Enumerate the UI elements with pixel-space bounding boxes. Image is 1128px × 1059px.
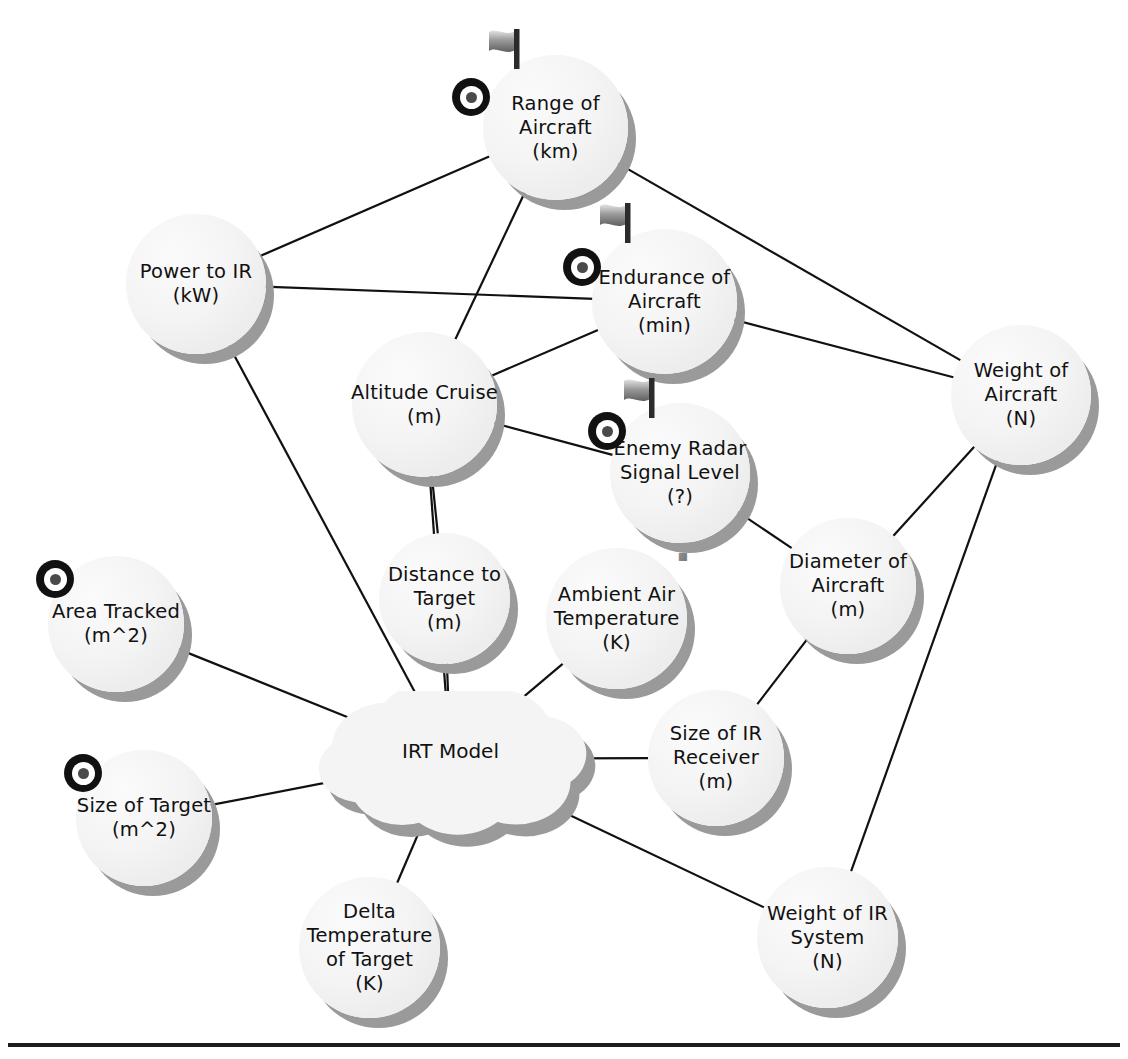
node-label-line: Area Tracked xyxy=(52,600,180,624)
node-label: Size of IRReceiver(m) xyxy=(648,690,784,826)
node-label-line: Signal Level xyxy=(620,461,740,485)
flag-icon xyxy=(481,24,537,84)
node-label: Diameter ofAircraft(m) xyxy=(780,518,916,654)
node-label-line: Range of xyxy=(511,92,599,116)
node-weight-of-aircraft[interactable]: Weight ofAircraft(N) xyxy=(951,325,1091,465)
node-label-line: Target xyxy=(414,587,476,611)
node-label-line: Size of Target xyxy=(77,794,211,818)
edge-endurance-of-aircraft--altitude-cruise xyxy=(489,329,599,376)
node-label-line: Aircraft xyxy=(812,574,885,598)
node-label-line: Distance to xyxy=(388,563,501,587)
node-label: Power to IR(kW) xyxy=(126,214,266,354)
edge-range-of-aircraft--altitude-cruise xyxy=(455,191,526,341)
node-label-line: (K) xyxy=(602,631,631,655)
node-altitude-cruise[interactable]: Altitude Cruise(m) xyxy=(352,332,497,477)
node-label-line: Weight of IR xyxy=(767,902,888,926)
node-label-line: (m) xyxy=(407,405,442,429)
node-label-line: Aircraft xyxy=(985,383,1058,407)
edge-endurance-of-aircraft--weight-of-aircraft xyxy=(733,319,956,377)
node-diameter-of-aircraft[interactable]: Diameter ofAircraft(m) xyxy=(780,518,916,654)
node-label-line: Power to IR xyxy=(140,260,252,284)
node-label-line: Receiver xyxy=(673,746,759,770)
node-irt-model[interactable]: IRT Model xyxy=(318,691,583,826)
node-label-line: Weight of xyxy=(974,359,1069,383)
node-label-line: (N) xyxy=(1006,407,1036,431)
node-label-line: Aircraft xyxy=(519,116,592,140)
node-label-line: (m) xyxy=(831,598,866,622)
edge-power-to-ir--range-of-aircraft xyxy=(258,156,491,257)
node-label-line: (?) xyxy=(667,485,693,509)
node-label-line: (m) xyxy=(427,611,462,635)
node-label-line: (kW) xyxy=(173,284,220,308)
node-label: Altitude Cruise(m) xyxy=(352,332,497,477)
edge-power-to-ir--endurance-of-aircraft xyxy=(264,287,594,299)
flag-icon xyxy=(592,198,648,258)
node-label-line: Size of IR xyxy=(670,722,763,746)
node-power-to-ir[interactable]: Power to IR(kW) xyxy=(126,214,266,354)
node-label-line: Aircraft xyxy=(628,290,701,314)
node-label-line: Altitude Cruise xyxy=(351,381,498,405)
node-label: Weight ofAircraft(N) xyxy=(951,325,1091,465)
node-label-line: Temperature xyxy=(554,607,680,631)
node-label-line: (m) xyxy=(699,770,734,794)
node-label-line: Enemy Radar xyxy=(613,437,746,461)
node-label: Weight of IRSystem(N) xyxy=(757,867,898,1008)
node-label-line: Endurance of xyxy=(599,266,731,290)
node-label-line: (km) xyxy=(532,140,578,164)
node-ambient-air-temperature[interactable]: Ambient AirTemperature(K) xyxy=(546,548,687,689)
node-label-line: Delta xyxy=(343,900,396,924)
node-delta-temperature-of-target[interactable]: DeltaTemperatureof Target(K) xyxy=(299,877,440,1018)
node-label-line: Ambient Air xyxy=(558,583,675,607)
flag-icon xyxy=(616,373,672,433)
node-distance-to-target[interactable]: Distance toTarget(m) xyxy=(379,533,510,664)
node-label-line: Diameter of xyxy=(789,550,907,574)
node-label-line: Temperature xyxy=(307,924,433,948)
node-label-line: (min) xyxy=(638,314,691,338)
node-weight-of-ir-system[interactable]: Weight of IRSystem(N) xyxy=(757,867,898,1008)
node-label-line: System xyxy=(791,926,865,950)
node-label: Distance toTarget(m) xyxy=(379,533,510,664)
node-label-line: of Target xyxy=(326,948,413,972)
bottom-divider xyxy=(8,1043,1120,1047)
node-label-line: (m^2) xyxy=(112,818,176,842)
node-label: IRT Model xyxy=(318,691,583,826)
node-size-of-ir-receiver[interactable]: Size of IRReceiver(m) xyxy=(648,690,784,826)
node-label-line: (K) xyxy=(355,972,384,996)
node-label-line: (N) xyxy=(812,950,842,974)
bullseye-icon xyxy=(64,754,102,792)
node-label: DeltaTemperatureof Target(K) xyxy=(299,877,440,1018)
diagram-canvas: Range ofAircraft(km)Power to IR(kW)Endur… xyxy=(0,0,1128,1059)
node-label-line: (m^2) xyxy=(84,624,148,648)
node-label: Ambient AirTemperature(K) xyxy=(546,548,687,689)
bullseye-icon xyxy=(36,560,74,598)
